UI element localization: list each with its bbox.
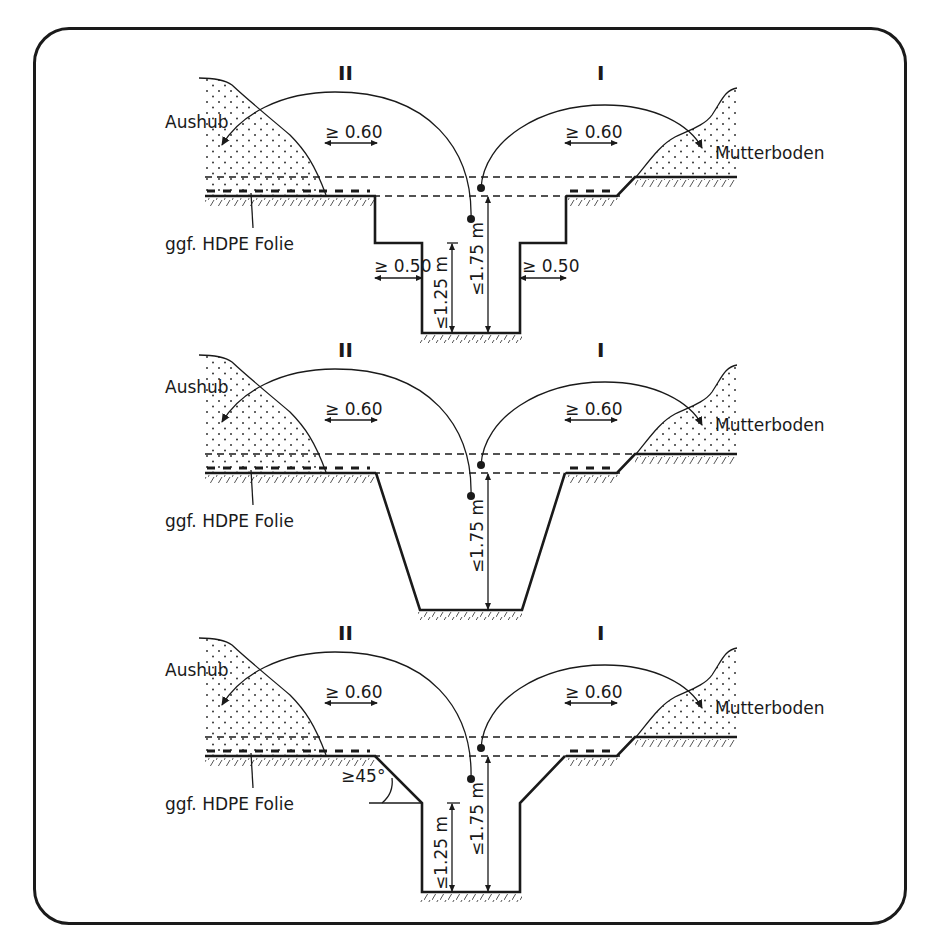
depth-lower-label: ≤1.25 m [431, 816, 451, 890]
aushub-label: Aushub [165, 660, 229, 680]
depth-total-label: ≤1.75 m [467, 222, 487, 296]
section-label-left: II [338, 61, 353, 85]
clearance-right-label: ≥ 0.60 [565, 682, 623, 702]
aushub-label: Aushub [165, 112, 229, 132]
angle-label: ≥45° [341, 766, 385, 786]
panel-chamfered: II I Aushub Mutterboden ggf. HDPE Folie … [165, 621, 824, 902]
clearance-left-label: ≥ 0.60 [325, 122, 383, 142]
clearance-right-label: ≥ 0.60 [565, 122, 623, 142]
panel-surroundings [199, 638, 737, 788]
panel-stepped: II I Aushub Mutterboden ggf. HDPE Folie … [165, 61, 824, 343]
section-label-left: II [338, 621, 353, 645]
trench-diagram: II I Aushub Mutterboden ggf. HDPE Folie … [0, 0, 937, 952]
hdpe-label: ggf. HDPE Folie [165, 794, 294, 814]
depth-total-label: ≤1.75 m [467, 499, 487, 573]
section-label-right: I [597, 621, 604, 645]
section-label-right: I [597, 338, 604, 362]
aushub-label: Aushub [165, 377, 229, 397]
panel-sloped: II I Aushub Mutterboden ggf. HDPE Folie … [165, 338, 824, 620]
hdpe-label: ggf. HDPE Folie [165, 511, 294, 531]
clearance-right-label: ≥ 0.60 [565, 399, 623, 419]
clearance-left-label: ≥ 0.60 [325, 682, 383, 702]
mutterboden-label: Mutterboden [715, 415, 824, 435]
hdpe-label: ggf. HDPE Folie [165, 234, 294, 254]
depth-lower-label: ≤1.25 m [431, 256, 451, 330]
section-label-left: II [338, 338, 353, 362]
mutterboden-label: Mutterboden [715, 143, 824, 163]
depth-total-label: ≤1.75 m [467, 782, 487, 856]
step-left-label: ≥ 0.50 [374, 256, 432, 276]
clearance-left-label: ≥ 0.60 [325, 399, 383, 419]
panel-surroundings [199, 78, 737, 228]
panel-surroundings [199, 355, 737, 505]
mutterboden-label: Mutterboden [715, 698, 824, 718]
step-right-label: ≥ 0.50 [522, 256, 580, 276]
section-label-right: I [597, 61, 604, 85]
